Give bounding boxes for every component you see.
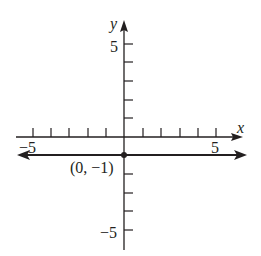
x-tick-label-5: 5: [211, 139, 219, 156]
y-tick-label-5: 5: [110, 38, 118, 55]
y-tick-label-neg5: −5: [100, 224, 117, 241]
x-axis-label: x: [236, 119, 244, 136]
coordinate-plane: y x 5 −5 −5 5 (0, −1): [0, 0, 261, 256]
x-axis: [16, 128, 243, 141]
y-axis-label: y: [108, 15, 118, 33]
x-tick-label-neg5: −5: [19, 139, 36, 156]
point-0-neg1: [121, 152, 127, 158]
y-axis: [120, 20, 133, 250]
point-label: (0, −1): [70, 159, 114, 177]
